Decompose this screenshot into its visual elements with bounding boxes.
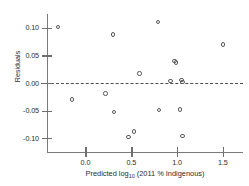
- x-axis-label-subscript: 10: [129, 173, 135, 179]
- scatter-point: [180, 134, 184, 138]
- scatter-point: [132, 129, 136, 133]
- scatter-point: [174, 60, 178, 64]
- scatter-point: [221, 42, 225, 46]
- scatter-point: [178, 107, 182, 111]
- scatter-points-layer: [0, 0, 249, 186]
- y-axis-label: Residuals: [13, 32, 22, 102]
- scatter-point: [70, 97, 74, 101]
- scatter-point: [103, 91, 107, 95]
- scatter-point: [126, 135, 130, 139]
- scatter-point: [112, 110, 116, 114]
- x-axis-label-prefix: Predicted log: [86, 169, 129, 178]
- scatter-point: [168, 79, 172, 83]
- scatter-point: [111, 32, 115, 36]
- scatter-point: [137, 71, 141, 75]
- scatter-point: [156, 20, 160, 24]
- scatter-point: [56, 25, 60, 29]
- scatter-point: [157, 108, 161, 112]
- x-axis-label: Predicted log10 (2011 % Indigenous): [47, 169, 243, 178]
- scatter-point: [180, 80, 184, 84]
- residual-scatter-plot: 0.100.050.00-0.05-0.10 0.00.51.01.5 Resi…: [0, 0, 249, 186]
- x-axis-label-suffix: (2011 % Indigenous): [135, 169, 205, 178]
